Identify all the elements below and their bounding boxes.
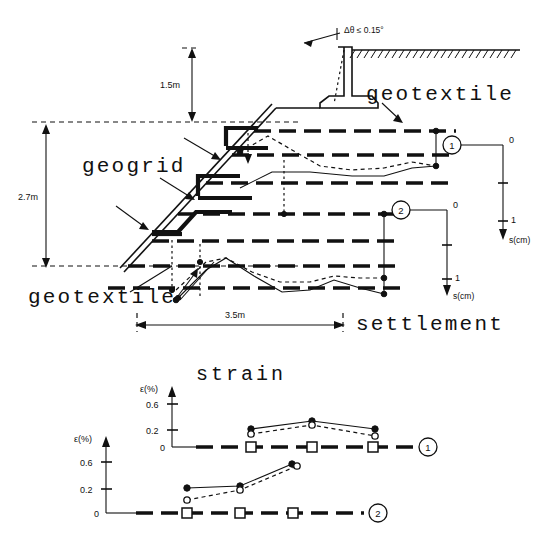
- settlement-scale-1-tick-0: 0: [509, 135, 514, 145]
- settlement-scale-2-unit: s(cm): [453, 291, 474, 301]
- geotextile-top-pointer: [382, 103, 403, 123]
- strain-chart-2-ytick-0: 0: [94, 509, 99, 519]
- settlement-scale-1: 1 0 1 s(cm): [443, 135, 530, 245]
- settlement-scale-2-tick-0: 0: [453, 200, 458, 210]
- dimension-reinforced-height: [42, 124, 50, 268]
- settlement-scale-1-tick-1: 1: [511, 215, 516, 225]
- settlement-scale-2-tick-1: 1: [455, 273, 460, 283]
- settlement-profile-lower: [173, 211, 387, 303]
- ground-surface-hatched: [350, 50, 520, 58]
- strain-chart-title: strain: [196, 363, 286, 386]
- settlement-scale-2: 2 0 1 s(cm): [392, 200, 474, 301]
- reinforced-height-label: 2.7m: [18, 192, 38, 202]
- settlement-marker-1-label: 1: [449, 140, 454, 151]
- strain-chart-2-ylabel: ε(%): [74, 434, 92, 444]
- strain-chart-1: ε(%) 0.6 0.2 0 1: [140, 384, 437, 456]
- strain-chart-1-ytick-02: 0.2: [146, 426, 159, 436]
- geotechnical-cross-section-figure: Δθ ≤ 0.15° 1.5m 2.7m: [0, 0, 548, 538]
- settlement-label: settlement: [356, 313, 504, 336]
- geogrid-label: geogrid: [82, 155, 186, 178]
- strain-chart-2-ytick-02: 0.2: [80, 485, 93, 495]
- embankment-outline: [120, 104, 320, 272]
- wrapped-geogrid-elements: [152, 128, 268, 234]
- geotextile-top-label: geotextile: [366, 83, 514, 106]
- settlement-scale-1-unit: s(cm): [509, 235, 530, 245]
- strain-chart-1-ytick-0: 0: [160, 443, 165, 453]
- strain-chart-1-ylabel: ε(%): [140, 384, 158, 394]
- embankment-height-label: 1.5m: [160, 80, 180, 90]
- geotextile-bottom-label: geotextile: [28, 286, 176, 309]
- rotation-annotation: [304, 28, 344, 104]
- settlement-marker-2-label: 2: [398, 205, 403, 216]
- strain-chart-1-marker: 1: [425, 442, 430, 453]
- rotation-note-label: Δθ ≤ 0.15°: [344, 25, 384, 35]
- dimension-embankment-height: [182, 48, 200, 122]
- strain-chart-2-ytick-06: 0.6: [80, 458, 93, 468]
- base-width-label: 3.5m: [225, 310, 245, 320]
- strain-chart-1-ytick-06: 0.6: [146, 400, 159, 410]
- strain-chart-2-marker: 2: [375, 508, 380, 519]
- settlement-profile-upper: [237, 128, 439, 188]
